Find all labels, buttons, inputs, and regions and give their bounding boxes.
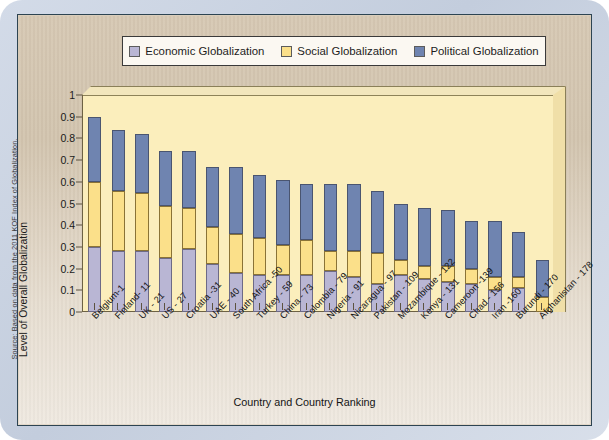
y-axis-tick-label: 0.3 bbox=[60, 241, 75, 253]
bar-segment-political bbox=[182, 151, 195, 207]
y-axis-tick-label: 0.7 bbox=[60, 154, 75, 166]
bar-stack bbox=[88, 117, 101, 312]
chart-screenshot: Source: Based on data from the 2011 KOF … bbox=[0, 0, 609, 440]
bar-segment-political bbox=[206, 167, 219, 228]
x-axis-labels: Belgium-1Finland- 11UK - 21US - 27Croati… bbox=[0, 0, 609, 120]
bar-segment-social bbox=[159, 206, 172, 258]
bar-segment-social bbox=[324, 251, 337, 271]
bar-segment-social bbox=[135, 193, 148, 252]
bar-stack bbox=[182, 151, 195, 312]
bar-segment-political bbox=[418, 208, 431, 267]
bar-segment-social bbox=[253, 238, 266, 275]
bar-segment-social bbox=[206, 227, 219, 264]
y-axis-tick-label: 0.8 bbox=[60, 132, 75, 144]
bar-segment-social bbox=[182, 208, 195, 249]
y-axis-tick-label: 0.6 bbox=[60, 176, 75, 188]
bar-segment-political bbox=[135, 134, 148, 193]
y-axis-tick-label: 0 bbox=[69, 306, 75, 318]
y-axis-tick-label: 0.4 bbox=[60, 219, 75, 231]
bar-segment-political bbox=[229, 167, 242, 234]
bar-segment-political bbox=[253, 175, 266, 238]
bar-segment-social bbox=[347, 251, 360, 277]
y-axis: 00.10.20.30.40.50.60.70.80.91 Level of O… bbox=[0, 86, 82, 321]
bar-segment-political bbox=[300, 184, 313, 240]
bar-segment-social bbox=[229, 234, 242, 273]
bar-segment-political bbox=[512, 232, 525, 278]
bar-segment-political bbox=[159, 151, 172, 205]
bar-segment-social bbox=[88, 182, 101, 247]
y-axis-tick-label: 0.2 bbox=[60, 263, 75, 275]
bar-segment-political bbox=[276, 180, 289, 245]
bar-segment-political bbox=[112, 130, 125, 191]
y-axis-title: Level of Overall Globalization bbox=[18, 205, 29, 375]
x-axis-title: Country and Country Ranking bbox=[0, 396, 609, 408]
bar-segment-political bbox=[324, 184, 337, 251]
y-axis-tick-label: 0.5 bbox=[60, 198, 75, 210]
bar-segment-political bbox=[88, 117, 101, 182]
bar-stack bbox=[159, 151, 172, 312]
bar-segment-social bbox=[112, 191, 125, 252]
bar-segment-political bbox=[394, 204, 407, 260]
y-axis-tick-label: 0.1 bbox=[60, 284, 75, 296]
bar-segment-political bbox=[371, 191, 384, 254]
bar-segment-political bbox=[347, 184, 360, 251]
bar-segment-social bbox=[300, 240, 313, 275]
bar-segment-political bbox=[465, 221, 478, 269]
